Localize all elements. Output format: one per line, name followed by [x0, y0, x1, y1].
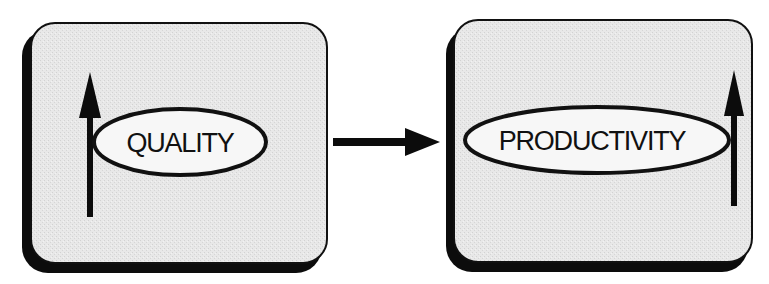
productivity-label: PRODUCTIVITY: [499, 126, 687, 156]
quality-box: QUALITY: [22, 23, 327, 273]
quality-label: QUALITY: [126, 128, 234, 158]
productivity-box: PRODUCTIVITY: [446, 20, 752, 272]
flow-arrow-icon: [333, 128, 440, 156]
diagram-canvas: QUALITY PRODUCTIVITY: [0, 0, 769, 284]
